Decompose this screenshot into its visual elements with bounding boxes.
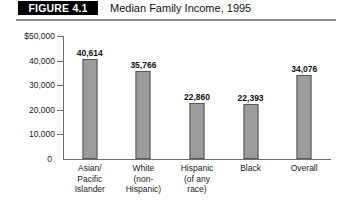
y-axis-tick	[57, 36, 63, 37]
bar-group: 40,614Asian/PacificIslander	[63, 24, 117, 160]
bar	[297, 75, 312, 159]
bar	[136, 71, 151, 159]
x-axis-category-label: Hispanic(of anyrace)	[169, 163, 225, 195]
y-axis-tick	[57, 134, 63, 135]
bar-series: 40,614Asian/PacificIslander35,766White(n…	[63, 24, 331, 212]
y-axis-tick	[57, 110, 63, 111]
figure-container: FIGURE 4.1 Median Family Income, 1995 10…	[0, 0, 350, 212]
bar	[82, 59, 97, 159]
bar-value-label: 35,766	[130, 60, 156, 70]
y-axis-tick	[57, 61, 63, 62]
bar-value-label: 22,860	[184, 92, 210, 102]
bar-group: 34,076Overall	[277, 24, 331, 160]
y-axis-labels: 10,00020,00030,00040,000$50,000	[0, 24, 55, 212]
bar-group: 22,860Hispanic(of anyrace)	[170, 24, 224, 160]
x-axis-category-label: Asian/PacificIslander	[62, 163, 118, 195]
x-axis-category-label: Black	[223, 163, 279, 174]
chart-plot-area: 10,00020,00030,00040,000$50,000 0 40,614…	[0, 24, 350, 212]
bar-group: 22,393Black	[224, 24, 278, 160]
bar-value-label: 22,393	[238, 93, 264, 103]
figure-header: FIGURE 4.1 Median Family Income, 1995	[0, 0, 350, 20]
x-axis-category-label: Overall	[276, 163, 332, 174]
bar-value-label: 40,614	[77, 48, 103, 58]
y-axis-tick-label: 30,000	[3, 80, 55, 90]
y-axis-tick	[57, 85, 63, 86]
bar-value-label: 34,076	[291, 64, 317, 74]
bar-group: 35,766White(non-Hispanic)	[117, 24, 171, 160]
bar	[189, 103, 204, 159]
y-axis-tick-label: $50,000	[3, 31, 55, 41]
header-divider	[16, 19, 336, 21]
y-axis-tick-label: 20,000	[3, 105, 55, 115]
figure-number-badge: FIGURE 4.1	[18, 1, 98, 15]
y-axis-zero-label: 0	[0, 154, 52, 164]
y-axis-tick-label: 40,000	[3, 56, 55, 66]
x-axis-category-label: White(non-Hispanic)	[115, 163, 171, 195]
bar	[243, 104, 258, 159]
y-axis-tick-label: 10,000	[3, 129, 55, 139]
figure-title: Median Family Income, 1995	[110, 1, 251, 15]
